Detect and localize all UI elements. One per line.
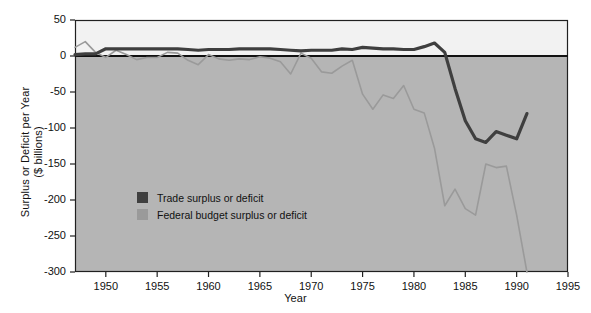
- y-axis-title-line-2: ($ billions): [32, 62, 45, 242]
- plot-background-below-zero: [75, 56, 568, 272]
- legend-label: Trade surplus or deficit: [157, 192, 263, 204]
- legend-label: Federal budget surplus or deficit: [157, 209, 307, 221]
- legend-swatch: [137, 192, 148, 203]
- x-axis-title: Year: [0, 292, 591, 304]
- chart-plot-svg: [0, 0, 591, 313]
- y-axis-title-line-1: Surplus or Deficit per Year: [19, 62, 32, 242]
- legend-swatch: [137, 209, 148, 220]
- chart-figure: 500-50-100-150-200-250-30019501955196019…: [0, 0, 591, 313]
- y-axis-title: Surplus or Deficit per Year($ billions): [19, 62, 45, 242]
